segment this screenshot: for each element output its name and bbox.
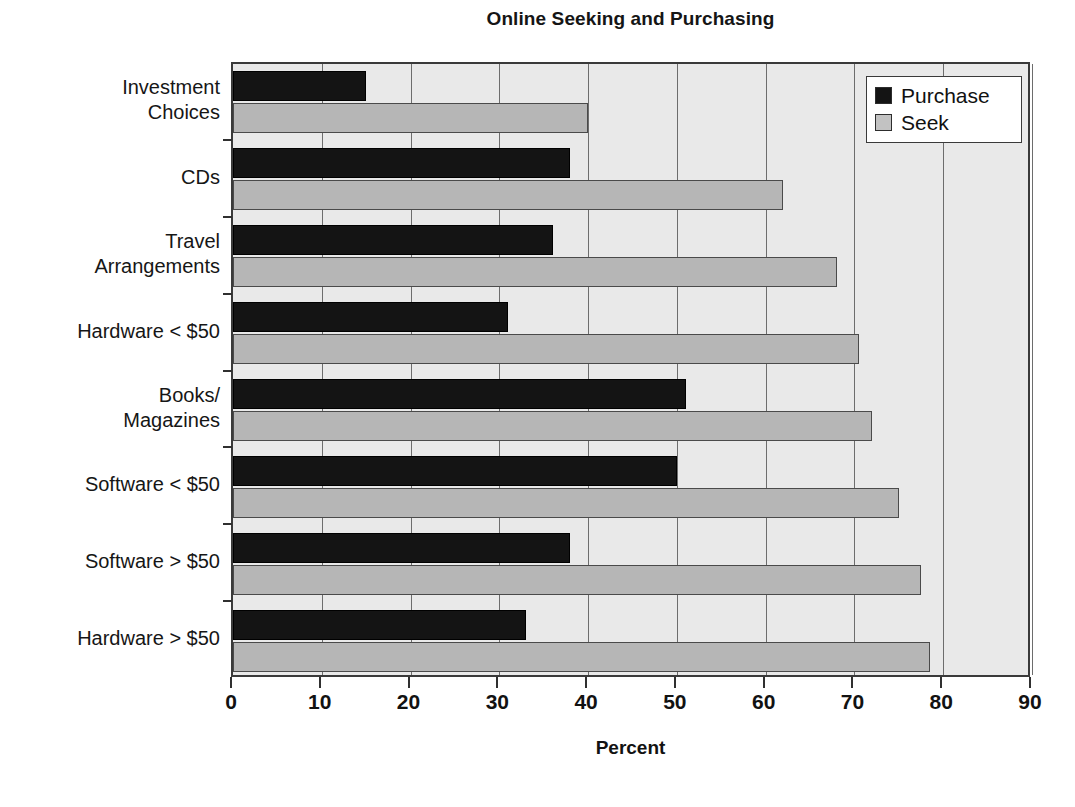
x-axis-tick-label: 0: [201, 690, 261, 714]
bar-seek[interactable]: [233, 565, 921, 595]
plot-area: [231, 62, 1030, 677]
legend-swatch-seek-icon: [875, 114, 892, 131]
x-axis-tick-label: 20: [379, 690, 439, 714]
x-axis-tick-label: 50: [645, 690, 705, 714]
y-axis-label: CDs: [20, 165, 220, 190]
x-axis-tick: [940, 677, 942, 688]
y-axis-label: Hardware < $50: [20, 319, 220, 344]
y-axis-label: Books/ Magazines: [20, 383, 220, 433]
x-axis-tick: [674, 677, 676, 688]
y-axis-label: Software > $50: [20, 549, 220, 574]
legend-item-purchase[interactable]: Purchase: [875, 82, 1013, 109]
y-axis-tick: [223, 293, 232, 295]
category-band: [233, 602, 1028, 679]
category-band: [233, 372, 1028, 449]
bar-purchase[interactable]: [233, 456, 677, 486]
legend-label: Seek: [901, 112, 949, 133]
y-axis-label: Investment Choices: [20, 75, 220, 125]
bar-purchase[interactable]: [233, 610, 526, 640]
legend-swatch-purchase-icon: [875, 87, 892, 104]
x-axis-tick-label: 10: [290, 690, 350, 714]
bar-seek[interactable]: [233, 180, 783, 210]
y-axis-tick: [223, 600, 232, 602]
x-axis-tick-label: 90: [1000, 690, 1060, 714]
y-axis-tick: [223, 446, 232, 448]
category-band: [233, 295, 1028, 372]
category-band: [233, 218, 1028, 295]
category-band: [233, 525, 1028, 602]
scan-artifact: [570, 780, 1010, 802]
x-axis-tick: [230, 677, 232, 688]
x-axis-tick-label: 80: [911, 690, 971, 714]
x-axis-tick: [763, 677, 765, 688]
gridline-90: [1032, 64, 1033, 675]
bar-purchase[interactable]: [233, 71, 366, 101]
y-axis-label: Hardware > $50: [20, 626, 220, 651]
x-axis-tick: [408, 677, 410, 688]
chart-legend: PurchaseSeek: [866, 76, 1022, 143]
bar-purchase[interactable]: [233, 225, 553, 255]
category-band: [233, 141, 1028, 218]
legend-item-seek[interactable]: Seek: [875, 109, 1013, 136]
x-axis-tick-label: 70: [822, 690, 882, 714]
x-axis-tick-label: 40: [556, 690, 616, 714]
bar-seek[interactable]: [233, 103, 588, 133]
bar-seek[interactable]: [233, 411, 872, 441]
legend-label: Purchase: [901, 85, 990, 106]
category-band: [233, 448, 1028, 525]
y-axis-tick: [223, 370, 232, 372]
bar-seek[interactable]: [233, 257, 837, 287]
bar-purchase[interactable]: [233, 148, 570, 178]
x-axis-tick: [496, 677, 498, 688]
y-axis-tick: [223, 523, 232, 525]
x-axis-tick: [585, 677, 587, 688]
x-axis-tick-label: 60: [734, 690, 794, 714]
bar-seek[interactable]: [233, 488, 899, 518]
y-axis-tick: [223, 216, 232, 218]
bar-seek[interactable]: [233, 642, 930, 672]
x-axis-tick: [851, 677, 853, 688]
chart-title: Online Seeking and Purchasing: [231, 8, 1030, 30]
y-axis-label: Software < $50: [20, 472, 220, 497]
x-axis-title: Percent: [231, 737, 1030, 759]
x-axis-tick: [1029, 677, 1031, 688]
x-axis-tick: [319, 677, 321, 688]
bar-purchase[interactable]: [233, 302, 508, 332]
y-axis-tick: [223, 139, 232, 141]
bar-purchase[interactable]: [233, 533, 570, 563]
chart-figure: Online Seeking and Purchasing Investment…: [0, 0, 1075, 807]
y-axis-label: Travel Arrangements: [20, 229, 220, 279]
bar-purchase[interactable]: [233, 379, 686, 409]
bar-seek[interactable]: [233, 334, 859, 364]
x-axis-tick-label: 30: [467, 690, 527, 714]
